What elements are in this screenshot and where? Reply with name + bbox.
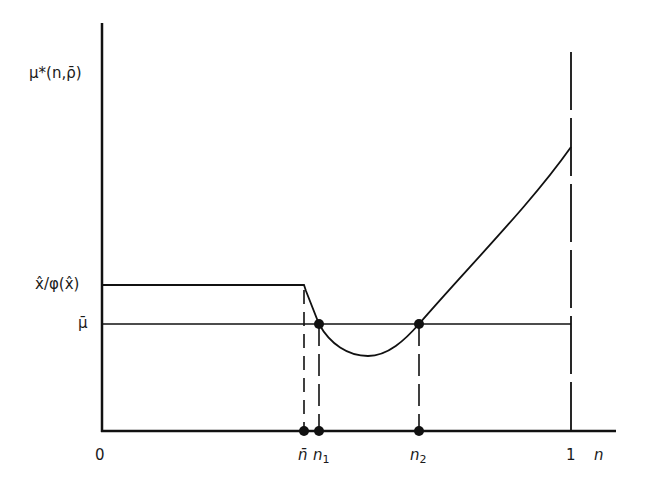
x-axis-label: n bbox=[594, 448, 604, 463]
n1-intersection-dot bbox=[314, 319, 324, 329]
n2-base: n bbox=[410, 446, 420, 464]
diagram-canvas bbox=[0, 0, 648, 483]
x-tick-n-bar: n̄ bbox=[298, 448, 308, 463]
x-tick-one: 1 bbox=[566, 448, 576, 463]
y-tick-upper-label: x̂/φ(x̂) bbox=[35, 277, 79, 292]
x-tick-zero: 0 bbox=[95, 448, 105, 463]
n2-intersection-dot bbox=[414, 319, 424, 329]
n1-base: n bbox=[313, 446, 323, 464]
n2-sub: 2 bbox=[420, 453, 427, 466]
y-axis-label: μ*(n,ρ̄) bbox=[29, 66, 82, 81]
n1-axis-dot bbox=[314, 426, 324, 436]
n2-axis-dot bbox=[414, 426, 424, 436]
n-bar-axis-dot bbox=[299, 426, 309, 436]
x-tick-n1: n1 bbox=[313, 448, 330, 465]
x-tick-n2: n2 bbox=[410, 448, 427, 465]
y-tick-mu-bar-label: μ̄ bbox=[78, 316, 88, 331]
n1-sub: 1 bbox=[323, 453, 330, 466]
